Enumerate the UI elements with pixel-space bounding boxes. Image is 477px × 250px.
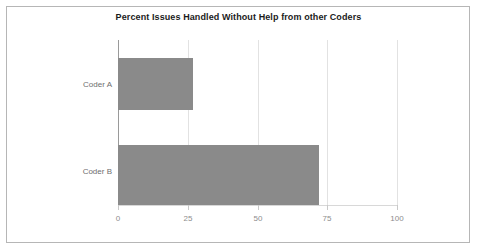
gridline-100 [397, 40, 398, 205]
gridline-75 [327, 40, 328, 205]
bar-coder-a[interactable] [118, 58, 193, 110]
tick-label-100: 100 [377, 214, 417, 223]
chart-title: Percent Issues Handled Without Help from… [0, 12, 477, 22]
tick-mark-100 [397, 205, 398, 210]
tick-mark-50 [258, 205, 259, 210]
tick-label-25: 25 [168, 214, 208, 223]
tick-label-50: 50 [238, 214, 278, 223]
tick-label-0: 0 [98, 214, 138, 223]
category-label-coder-a: Coder A [12, 80, 112, 89]
category-label-coder-b: Coder B [12, 167, 112, 176]
tick-mark-75 [327, 205, 328, 210]
chart-screenshot: Percent Issues Handled Without Help from… [0, 0, 477, 250]
tick-mark-0 [118, 205, 119, 210]
tick-mark-25 [188, 205, 189, 210]
plot-area [118, 40, 397, 205]
tick-label-75: 75 [307, 214, 347, 223]
bar-coder-b[interactable] [118, 145, 319, 205]
